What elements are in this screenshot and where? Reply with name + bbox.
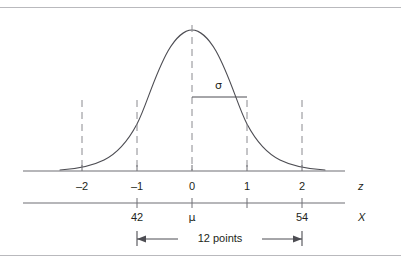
distribution-plot <box>0 0 401 262</box>
z-tick-label-pos2: 2 <box>299 181 305 192</box>
z-tick-label-neg2: –2 <box>76 181 88 192</box>
span-arrowhead-left <box>137 236 146 243</box>
z-tick-label-neg1: –1 <box>131 181 143 192</box>
span-label: 12 points <box>198 233 243 244</box>
z-tick-label-zero: 0 <box>189 181 195 192</box>
z-tick-label-pos1: 1 <box>244 181 250 192</box>
normal-distribution-figure: σ –2 –1 0 1 2 z 42 μ 54 X 12 points <box>0 0 401 262</box>
z-axis-name: z <box>358 181 364 192</box>
x-axis-name: X <box>358 212 365 223</box>
span-arrowhead-right <box>293 236 302 243</box>
x-tick-label-42: 42 <box>131 212 143 223</box>
x-tick-label-mu: μ <box>189 212 196 223</box>
sigma-label: σ <box>215 80 222 91</box>
x-tick-label-54: 54 <box>296 212 308 223</box>
